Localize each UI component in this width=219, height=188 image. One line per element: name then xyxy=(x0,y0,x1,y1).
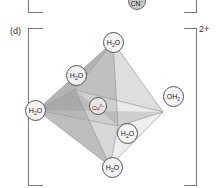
ligand-left: H2O xyxy=(25,100,46,121)
ligand-upper-back: H2O xyxy=(66,65,87,86)
ligand-right: OH2 xyxy=(163,86,184,107)
ligand-top: H2O xyxy=(103,32,124,53)
ligand-lower-front: H2O xyxy=(117,123,138,144)
cn-charge: − xyxy=(141,0,144,4)
center-metal: Cu2+ xyxy=(89,97,107,115)
ligand-bottom: H2O xyxy=(102,157,123,178)
cn-label: CN xyxy=(130,0,140,7)
